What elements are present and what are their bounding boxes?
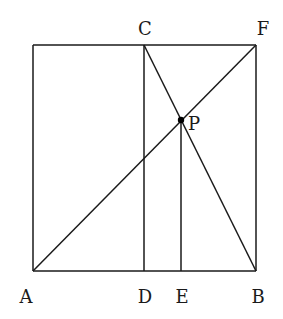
label-b: B <box>251 286 264 307</box>
label-c: C <box>138 18 152 39</box>
geometry-diagram: A B C D E F P <box>0 0 283 319</box>
segments-group <box>33 45 256 271</box>
point-p-dot <box>178 117 184 123</box>
label-p: P <box>188 113 200 134</box>
label-f: F <box>257 18 270 39</box>
label-a: A <box>19 286 34 307</box>
label-e: E <box>175 286 188 307</box>
segment-cb <box>144 45 256 271</box>
points-group <box>178 117 184 123</box>
label-d: D <box>138 286 152 307</box>
